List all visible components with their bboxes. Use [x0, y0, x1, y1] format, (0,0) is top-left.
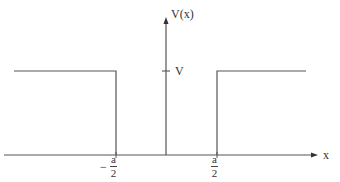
left-edge-numerator: a [110, 154, 117, 165]
diagram-canvas [0, 0, 340, 182]
right-edge-denominator: 2 [211, 168, 218, 179]
left-edge-label: a 2 [110, 154, 117, 179]
y-axis-arrow-icon [164, 17, 169, 24]
potential-well-diagram: V(x) x V − a 2 a 2 [0, 0, 340, 182]
right-edge-numerator: a [211, 154, 218, 165]
x-axis-label: x [323, 149, 329, 161]
x-axis-arrow-icon [311, 153, 318, 158]
y-axis-label: V(x) [171, 8, 194, 20]
right-barrier [217, 71, 306, 155]
left-edge-sign: − [100, 161, 107, 173]
left-barrier [14, 71, 116, 155]
right-edge-label: a 2 [211, 154, 218, 179]
potential-level-label: V [175, 65, 184, 77]
left-edge-denominator: 2 [110, 168, 117, 179]
